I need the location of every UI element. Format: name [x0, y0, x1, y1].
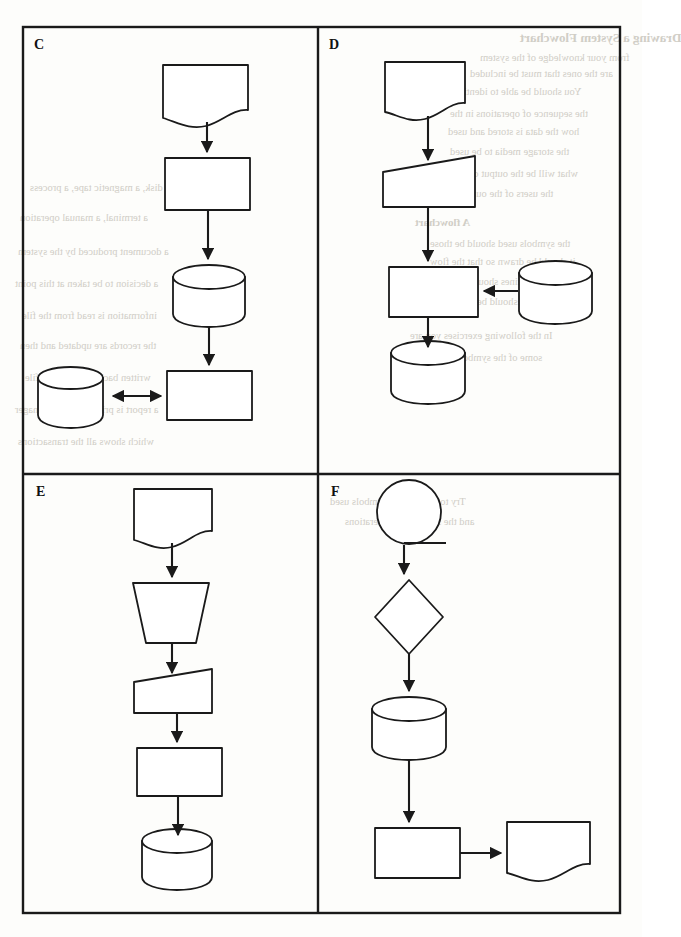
panel-d-database-sink-shape — [391, 341, 465, 404]
panel-f-decision-shape — [375, 580, 443, 654]
panel-e-manual-operation-shape — [133, 583, 209, 643]
panel-d-document-shape — [385, 62, 465, 120]
panel-c-database-2-shape — [38, 367, 103, 428]
panel-e-input-output-shape — [134, 669, 212, 713]
panel-e-process-shape — [137, 748, 222, 796]
panel-e-database-shape — [142, 829, 212, 890]
panel-c-database-shape — [173, 265, 245, 327]
panel-f-document-shape — [507, 822, 590, 881]
panel-d-process-shape — [389, 267, 478, 317]
panel-label-f: F — [331, 484, 340, 500]
panel-f-connector-circle-shape — [377, 480, 441, 544]
panel-d-database-source-shape — [519, 261, 592, 324]
panel-c-process-2-shape — [167, 371, 252, 420]
panel-label-d: D — [329, 37, 339, 53]
panel-d-input-output-shape — [383, 156, 475, 207]
panel-label-e: E — [36, 484, 45, 500]
figure-outer-border — [23, 27, 620, 913]
panel-label-c: C — [34, 37, 44, 53]
panel-e-document-shape — [134, 489, 212, 548]
panel-c-process-shape — [165, 158, 250, 210]
panel-f-database-shape — [372, 697, 446, 760]
panel-c-document-shape — [163, 65, 248, 127]
panel-f-process-shape — [375, 828, 460, 878]
